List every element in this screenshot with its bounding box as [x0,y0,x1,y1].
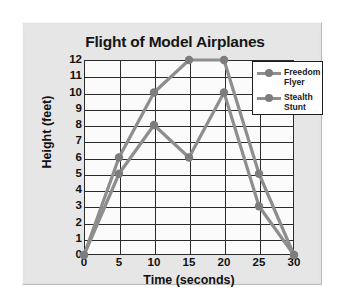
x-tick-label: 20 [209,257,239,269]
y-tick-label: 9 [60,103,82,115]
x-tick-label: 15 [174,257,204,269]
x-tick-label: 0 [69,257,99,269]
x-tick-label: 10 [139,257,169,269]
y-tick-label: 6 [60,152,82,164]
legend-label: StealthStunt [284,92,313,112]
gridline-horizontal [85,191,293,192]
legend-label: FreedomFlyer [284,67,320,87]
gridline-vertical [155,61,156,254]
legend-marker-icon [257,68,281,79]
legend-label-line2: Stunt [284,102,313,112]
gridline-horizontal [85,207,293,208]
legend-marker-icon [257,93,281,104]
y-tick-label: 8 [60,119,82,131]
y-tick-label: 2 [60,217,82,229]
gridline-horizontal [85,240,293,241]
legend-item-2: StealthStunt [257,92,318,112]
gridline-horizontal [85,159,293,160]
legend-label-line2: Flyer [284,77,320,87]
gridline-horizontal [85,175,293,176]
gridline-horizontal [85,126,293,127]
y-axis-title: Height (feet) [40,62,54,202]
y-tick-label: 5 [60,168,82,180]
x-tick-label: 30 [279,257,309,269]
legend-label-line1: Stealth [284,92,313,102]
y-tick-label: 12 [60,54,82,66]
y-axis-ticks: 0123456789101112 [58,60,82,255]
chart-figure-inner: Flight of Model Airplanes Height (feet) … [25,25,319,282]
legend-item-1: FreedomFlyer [257,67,318,87]
legend-dot-icon [265,69,273,77]
y-tick-label: 4 [60,184,82,196]
screenshot-root: Flight of Model Airplanes Height (feet) … [0,0,345,307]
x-axis-title: Time (seconds) [84,273,294,287]
gridline-vertical [190,61,191,254]
chart-title: Flight of Model Airplanes [25,33,325,51]
legend-label-line1: Freedom [284,67,320,77]
chart-legend: FreedomFlyerStealthStunt [252,61,323,115]
x-tick-label: 25 [244,257,274,269]
y-tick-label: 7 [60,135,82,147]
gridline-horizontal [85,224,293,225]
gridline-vertical [120,61,121,254]
x-axis-ticks: 051015202530 [84,257,294,273]
y-tick-label: 1 [60,233,82,245]
y-tick-label: 11 [60,70,82,82]
gridline-vertical [225,61,226,254]
x-tick-label: 5 [104,257,134,269]
y-tick-label: 3 [60,200,82,212]
y-tick-label: 10 [60,87,82,99]
gridline-horizontal [85,142,293,143]
legend-dot-icon [265,94,273,102]
chart-figure-frame: Flight of Model Airplanes Height (feet) … [22,22,322,285]
